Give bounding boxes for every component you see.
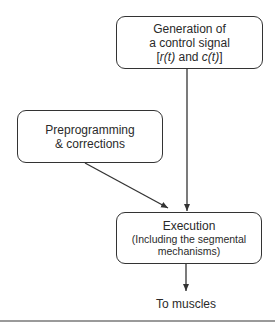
node-text: Preprogramming: [45, 123, 134, 137]
bottom-divider: [0, 320, 275, 322]
node-subtitle: (Including the segmental: [132, 233, 246, 245]
node-subtitle: mechanisms): [158, 245, 220, 257]
node-preprogramming-corrections: Preprogramming & corrections: [17, 110, 163, 163]
node-text: & corrections: [55, 137, 125, 151]
node-text: Generation of: [153, 22, 226, 36]
signal-c: c(t): [202, 50, 219, 64]
signal-r: r(t): [160, 50, 175, 64]
signal-formula: [r(t) and c(t)]: [156, 50, 222, 64]
node-execution: Execution (Including the segmental mecha…: [116, 212, 262, 264]
node-text: a control signal: [149, 36, 230, 50]
output-label-to-muscles: To muscles: [136, 297, 236, 311]
arrow-preprogramming-to-execution: [85, 163, 168, 208]
node-generation-control-signal: Generation of a control signal [r(t) and…: [116, 16, 263, 69]
bracket-close: ]: [219, 50, 222, 64]
node-title: Execution: [163, 219, 216, 233]
signal-and: and: [175, 50, 202, 64]
